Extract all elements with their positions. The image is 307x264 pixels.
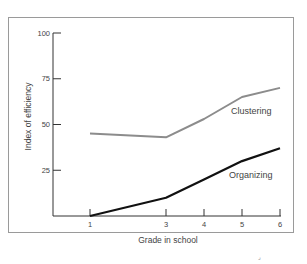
x-axis-title: Grade in school: [138, 235, 198, 245]
y-tick-label: 100: [37, 29, 50, 38]
x-tick-label: 3: [164, 220, 168, 229]
x-tick-label: 1: [88, 220, 92, 229]
series-label-organizing: Organizing: [229, 170, 273, 180]
corner-mark: ⌟: [258, 253, 261, 260]
x-tick-label: 6: [278, 220, 282, 229]
y-axis-title: Index of efficiency: [23, 82, 33, 151]
line-chart: 25507510013456 Grade in schoolIndex of e…: [0, 0, 307, 264]
y-tick-label: 50: [42, 120, 50, 129]
x-tick-label: 5: [240, 220, 244, 229]
x-tick-label: 4: [202, 220, 206, 229]
series-line-organizing: [90, 148, 280, 216]
y-tick-label: 25: [42, 166, 50, 175]
series-label-clustering: Clustering: [231, 106, 272, 116]
y-tick-label: 75: [42, 74, 50, 83]
